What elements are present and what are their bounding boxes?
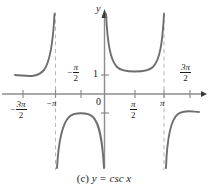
xtick-label-neg-pi: −π — [46, 99, 57, 108]
curve-branch-left-above — [15, 14, 55, 76]
fraction-denominator: 2 — [130, 110, 137, 120]
figure-caption: (c) y = csc x — [0, 172, 208, 184]
fraction: 3π2 — [180, 62, 191, 83]
plot-area — [0, 0, 208, 192]
curve-branch-middle-above — [106, 14, 164, 72]
origin-label: 0 — [96, 97, 101, 107]
xtick-label-neg-3pi-over-2: −3π2 — [10, 99, 27, 120]
x-axis-arrow-icon — [201, 91, 207, 97]
fraction: 3π2 — [16, 99, 27, 120]
xtick-label-neg-pi-over-2: −π2 — [67, 62, 79, 83]
fraction-denominator: 2 — [73, 73, 80, 83]
fraction: π2 — [130, 99, 137, 120]
curve-branch-right-below — [166, 111, 199, 168]
fraction-numerator: π — [73, 62, 80, 73]
fraction-denominator: 2 — [180, 73, 191, 83]
caption-prefix: (c) — [77, 172, 89, 184]
xtick-label-pi: π — [160, 99, 165, 108]
fraction-numerator: π — [130, 99, 137, 110]
caption-equation: y = csc x — [92, 172, 131, 184]
y-tick-label-one: 1 — [93, 69, 98, 79]
y-axis-label: y — [96, 4, 100, 14]
fraction-numerator: 3π — [16, 99, 27, 110]
xtick-label-pi-over-2: π2 — [130, 99, 137, 120]
xtick-label-3pi-over-2: 3π2 — [180, 62, 191, 83]
fraction-denominator: 2 — [16, 110, 27, 120]
figure-container: y 1 0 −3π2 −π −π2 π2 π 3π2 (c) y = csc x — [0, 0, 208, 192]
fraction: π2 — [73, 62, 80, 83]
fraction-numerator: 3π — [180, 62, 191, 73]
curve-branch-middle-below — [57, 113, 104, 168]
